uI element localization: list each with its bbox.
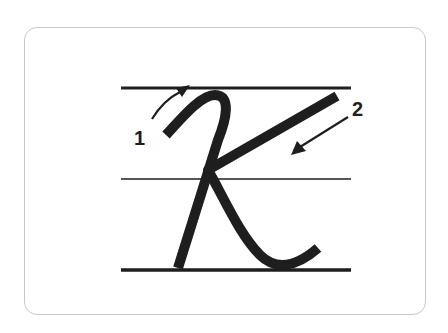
- arrow-2-head-icon: [291, 141, 306, 155]
- stroke-label-1: 1: [134, 128, 145, 148]
- arrow-2-shaft: [300, 117, 348, 147]
- stroke-label-2: 2: [352, 99, 363, 119]
- letter-diagram: [0, 0, 448, 333]
- arrow-1-shaft: [152, 92, 180, 119]
